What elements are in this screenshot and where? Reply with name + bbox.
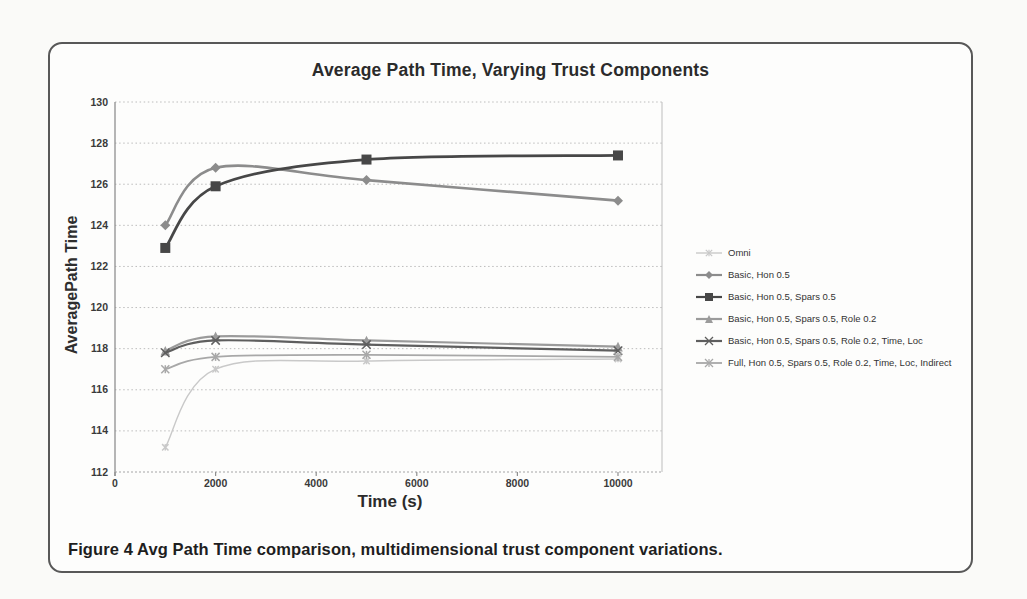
marker-diamond-icon (361, 175, 371, 185)
y-tick-label: 116 (91, 383, 108, 395)
legend-marker (695, 357, 723, 369)
x-tick-label: 8000 (506, 477, 530, 489)
figure-card: Average Path Time, Varying Trust Compone… (48, 42, 973, 573)
legend-item: Omni (695, 246, 951, 259)
legend-marker (695, 313, 723, 325)
series-line (165, 166, 618, 226)
y-tick-label: 124 (90, 219, 108, 231)
y-tick-label: 112 (91, 466, 108, 478)
y-tick-label: 126 (90, 178, 108, 190)
figure-caption: Figure 4 Avg Path Time comparison, multi… (68, 540, 723, 559)
y-tick-label: 122 (90, 260, 108, 272)
y-tick-label: 114 (91, 424, 108, 436)
series-line (165, 355, 618, 369)
y-tick-label: 128 (90, 137, 108, 149)
legend-marker (695, 247, 723, 259)
legend-label: Basic, Hon 0.5, Spars 0.5 (728, 291, 836, 302)
legend-marker (695, 291, 723, 303)
legend-item: Basic, Hon 0.5, Spars 0.5, Role 0.2, Tim… (695, 334, 951, 347)
x-tick-label: 6000 (405, 477, 429, 489)
marker-diamond-icon (211, 163, 221, 173)
legend-label: Basic, Hon 0.5 (728, 269, 790, 280)
marker-square-icon (160, 243, 170, 253)
marker-square-icon (613, 150, 623, 160)
x-axis-title: Time (s) (320, 492, 460, 512)
x-tick-label: 0 (112, 477, 118, 489)
marker-square-icon (361, 155, 371, 165)
series-line (165, 155, 618, 248)
marker-star-icon (162, 444, 168, 450)
marker-diamond-icon (705, 271, 713, 279)
legend-label: Basic, Hon 0.5, Spars 0.5, Role 0.2, Tim… (728, 335, 923, 346)
y-tick-label: 130 (90, 96, 108, 108)
marker-square-icon (705, 293, 713, 301)
y-tick-label: 118 (91, 342, 108, 354)
legend-label: Full, Hon 0.5, Spars 0.5, Role 0.2, Time… (728, 357, 951, 368)
legend-item: Basic, Hon 0.5, Spars 0.5 (695, 290, 951, 303)
legend-marker (695, 335, 723, 347)
legend-marker (695, 269, 723, 281)
legend-item: Full, Hon 0.5, Spars 0.5, Role 0.2, Time… (695, 356, 951, 369)
legend-item: Basic, Hon 0.5, Spars 0.5, Role 0.2 (695, 312, 951, 325)
x-tick-label: 2000 (204, 477, 228, 489)
marker-square-icon (211, 181, 221, 191)
chart-legend: OmniBasic, Hon 0.5Basic, Hon 0.5, Spars … (695, 246, 951, 369)
series-line (165, 359, 618, 447)
legend-label: Omni (728, 247, 751, 258)
y-tick-label: 120 (90, 301, 108, 313)
legend-label: Basic, Hon 0.5, Spars 0.5, Role 0.2 (728, 313, 876, 324)
legend-item: Basic, Hon 0.5 (695, 268, 951, 281)
x-tick-label: 10000 (603, 477, 632, 489)
x-tick-label: 4000 (305, 477, 329, 489)
marker-star-icon (212, 366, 218, 372)
marker-diamond-icon (613, 196, 623, 206)
